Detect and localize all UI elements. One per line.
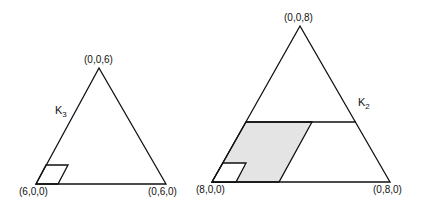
vertex-label-k2-left: (8,0,0) [196,184,225,195]
vertex-label-k2-right: (0,8,0) [373,184,402,195]
triangle-label-k3: K3 [55,104,67,119]
small-parallelogram-k3 [36,165,68,184]
vertex-label-k3-top: (0,0,6) [84,54,113,65]
triangle-k3 [36,68,166,184]
vertex-label-k3-left: (6,0,0) [19,186,48,197]
vertex-label-k3-right: (0,6,0) [148,186,177,197]
vertex-label-k2-top: (0,0,8) [284,12,313,23]
triangle-k3-outline [36,68,166,184]
triangle-label-k2: K2 [358,96,370,111]
